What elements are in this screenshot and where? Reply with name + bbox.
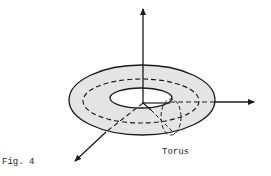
x-axis (75, 132, 106, 161)
figure-caption: Fig. 4 (2, 157, 34, 167)
torus-diagram (0, 0, 271, 176)
torus-label: Torus (162, 147, 189, 157)
torus-figure: Torus Fig. 4 (0, 0, 271, 176)
